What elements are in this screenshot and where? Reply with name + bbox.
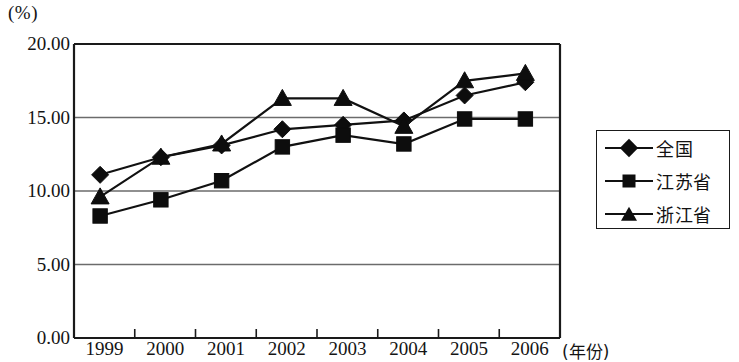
legend-label-0: 全国 [656,135,693,161]
data-point-diamond [456,87,473,104]
data-point-square [518,112,532,126]
data-point-diamond [274,121,291,138]
data-point-square [275,140,289,154]
data-point-diamond [92,166,109,183]
data-point-square [93,209,107,223]
data-point-square [214,174,228,188]
data-point-square [397,137,411,151]
legend-item-0[interactable]: 全国 [597,131,729,164]
legend-label-2: 浙江省 [656,201,712,227]
data-point-square [336,128,350,142]
chart-figure: (%) 0.005.0010.0015.0020.00 199920002001… [0,0,739,362]
data-point-triangle [91,188,109,204]
series-layer [91,64,534,223]
x-tick-label: 2006 [500,338,560,360]
data-point-square [154,193,168,207]
legend-label-1: 江苏省 [656,168,712,194]
legend-marker-triangle-icon [602,202,656,226]
x-tick-label: 2000 [135,338,195,360]
legend-item-1[interactable]: 江苏省 [597,164,729,197]
series-2 [93,112,533,223]
series-3 [91,64,534,204]
data-point-square [457,112,471,126]
x-tick-label: 2002 [257,338,317,360]
x-axis-tick-marks [135,329,500,338]
legend-item-2[interactable]: 浙江省 [597,197,729,230]
x-tick-label: 2005 [439,338,499,360]
x-tick-label: 1999 [74,338,134,360]
legend-marker-square-icon [602,169,656,193]
x-tick-label: 2004 [378,338,438,360]
x-axis-title: (年份) [562,338,609,362]
x-tick-label: 2003 [317,338,377,360]
x-tick-label: 2001 [196,338,256,360]
series-1 [92,74,534,184]
data-point-triangle [516,64,534,80]
legend-marker-diamond-icon [602,136,656,160]
legend: 全国 江苏省 浙江省 [596,130,730,229]
